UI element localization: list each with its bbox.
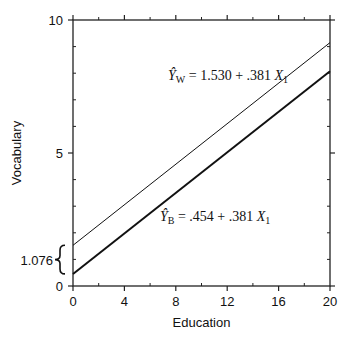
axis-ticks (68, 15, 335, 291)
x-axis-label: Education (173, 315, 231, 330)
intercept-difference-brace: 1.076 (20, 245, 65, 274)
equation-label-w: ŶW = 1.530 + .381 X1 (168, 67, 288, 85)
y-tick-label: 5 (56, 146, 63, 161)
y-tick-label: 0 (56, 279, 63, 294)
plot-border (73, 20, 330, 286)
equation-label-b: ŶB = .454 + .381 X1 (160, 208, 270, 226)
plot-frame (73, 20, 330, 286)
x-tick-label: 20 (323, 294, 337, 309)
regression-chart: 0481216200510 ŶW = 1.530 + .381 X1ŶB = .… (0, 0, 352, 347)
y-axis-label: Vocabulary (9, 120, 24, 185)
x-tick-label: 8 (172, 294, 179, 309)
x-tick-label: 0 (69, 294, 76, 309)
y-tick-label: 10 (49, 13, 63, 28)
x-tick-label: 12 (220, 294, 234, 309)
regression-line-b (73, 71, 330, 274)
x-tick-label: 16 (271, 294, 285, 309)
axis-tick-labels: 0481216200510 (49, 13, 338, 309)
brace-icon (55, 245, 65, 274)
x-tick-label: 4 (121, 294, 128, 309)
brace-value-label: 1.076 (20, 253, 53, 268)
